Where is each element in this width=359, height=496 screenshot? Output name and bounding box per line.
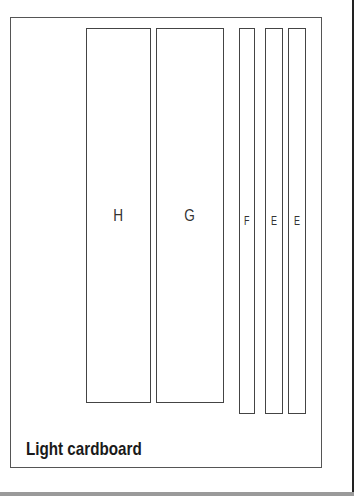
piece-label: H [114, 206, 124, 226]
diagram-title: Light cardboard [26, 438, 142, 460]
page-edge-right [352, 0, 354, 492]
piece-label: F [244, 214, 250, 228]
piece-g: G [156, 28, 224, 403]
piece-h: H [86, 28, 151, 403]
piece-label: G [185, 206, 196, 226]
page-edge-bottom [0, 492, 354, 496]
piece-f: F [239, 28, 255, 414]
piece-e-2: E [288, 28, 306, 414]
piece-e-1: E [265, 28, 283, 414]
piece-label: E [271, 214, 277, 228]
piece-label: E [294, 214, 300, 228]
